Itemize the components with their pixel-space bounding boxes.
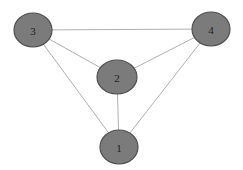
node-3: 3: [14, 13, 52, 47]
node-1: 1: [100, 130, 138, 164]
node-4: 4: [192, 12, 230, 46]
node-1-label: 1: [116, 142, 122, 154]
nodes-layer: 1 2 3 4: [14, 12, 230, 164]
node-2-label: 2: [114, 72, 120, 84]
node-3-label: 3: [30, 25, 36, 37]
edge-3-4: [33, 29, 211, 30]
node-4-label: 4: [208, 24, 214, 36]
graph-diagram: 1 2 3 4: [0, 0, 243, 170]
node-2: 2: [97, 60, 137, 94]
